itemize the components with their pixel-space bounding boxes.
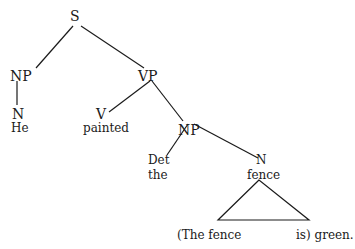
edge-vp-np: [152, 81, 183, 121]
edge-s-vp: [81, 26, 144, 68]
word-fence: fence: [247, 169, 280, 181]
clause-left-text: (The fence: [177, 229, 241, 241]
edge-s-np: [36, 26, 73, 68]
node-np-object: NP: [178, 123, 200, 137]
node-v: V: [96, 107, 106, 121]
syntax-tree-diagram: S NP VP N He V painted NP Det the N fenc…: [0, 0, 355, 249]
node-det: Det: [148, 154, 170, 166]
word-the: the: [148, 169, 168, 181]
node-n-subject: N: [12, 107, 24, 121]
node-vp: VP: [138, 69, 158, 83]
node-n-object: N: [256, 154, 267, 166]
word-he: He: [11, 122, 29, 134]
clause-right-text: is) green.: [296, 229, 354, 241]
node-s: S: [70, 9, 80, 23]
triangle-clause: [218, 180, 309, 220]
word-painted: painted: [83, 122, 129, 134]
node-np-subject: NP: [10, 69, 32, 83]
edge-np-n: [194, 124, 258, 158]
edge-vp-v: [109, 81, 150, 112]
